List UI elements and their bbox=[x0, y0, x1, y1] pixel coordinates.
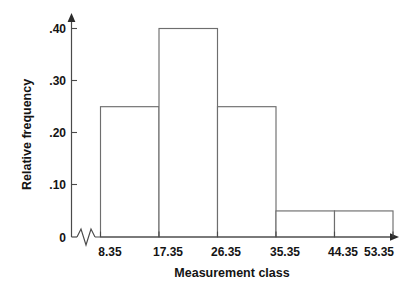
x-tick-label-8-35: 8.35 bbox=[98, 245, 122, 259]
y-axis-title: Relative frequency bbox=[20, 79, 34, 190]
x-tick-label-35-35: 35.35 bbox=[270, 245, 300, 259]
y-tick-label-20: .20 bbox=[49, 126, 66, 140]
chart-canvas: .40 .30 .20 .10 0 Relative frequency 8.3… bbox=[0, 0, 405, 292]
bar-2 bbox=[159, 29, 218, 238]
y-tick-label-10: .10 bbox=[49, 178, 66, 192]
bar-1 bbox=[101, 107, 160, 237]
bar-4 bbox=[276, 211, 335, 237]
bar-3 bbox=[218, 107, 277, 237]
histogram-chart: .40 .30 .20 .10 0 Relative frequency 8.3… bbox=[0, 0, 405, 292]
y-tick-label-30: .30 bbox=[49, 74, 66, 88]
y-tick-label-0: 0 bbox=[59, 231, 66, 245]
x-axis-title: Measurement class bbox=[174, 266, 289, 280]
x-tick-label-53-35: 53.35 bbox=[364, 245, 394, 259]
x-tick-label-44-35: 44.35 bbox=[328, 245, 358, 259]
x-tick-label-17-35: 17.35 bbox=[153, 245, 183, 259]
x-tick-label-26-35: 26.35 bbox=[211, 245, 241, 259]
y-tick-label-40: .40 bbox=[49, 22, 66, 36]
bar-5 bbox=[335, 211, 394, 237]
